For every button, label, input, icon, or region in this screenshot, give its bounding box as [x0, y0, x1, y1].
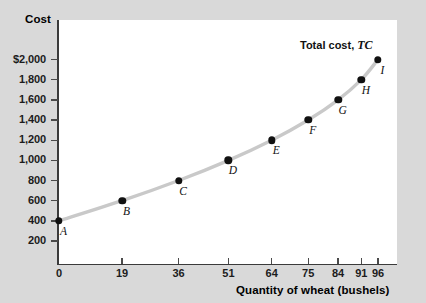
y-tick-mark — [51, 79, 58, 80]
data-point-label: C — [179, 185, 187, 197]
data-point-label: D — [229, 164, 237, 176]
y-tick-mark — [51, 119, 58, 120]
y-tick-label: 800 — [0, 174, 46, 186]
x-tick-mark — [308, 258, 309, 264]
data-point-label: H — [362, 84, 370, 96]
curve-label-symbol: TC — [357, 38, 372, 52]
data-point-label: E — [273, 144, 280, 156]
plot-area — [58, 20, 397, 264]
data-point-label: I — [381, 64, 385, 76]
y-tick-label: 400 — [0, 214, 46, 226]
chart-figure: Cost Quantity of wheat (bushels) 2004006… — [0, 0, 426, 303]
x-tick-mark — [337, 258, 338, 264]
data-point-label: F — [309, 124, 316, 136]
x-tick-label: 51 — [208, 267, 248, 279]
curve-label-text: Total cost, — [300, 39, 354, 51]
y-tick-mark — [51, 200, 58, 201]
x-tick-label: 0 — [39, 267, 79, 279]
y-axis-line — [57, 20, 59, 265]
y-tick-label: 1,400 — [0, 113, 46, 125]
y-tick-mark — [51, 140, 58, 141]
x-tick-mark — [121, 258, 122, 264]
y-tick-label: 200 — [0, 234, 46, 246]
x-tick-label: 96 — [358, 267, 398, 279]
x-tick-mark — [377, 258, 378, 264]
curve-label: Total cost, TC — [300, 38, 373, 53]
y-tick-mark — [51, 160, 58, 161]
y-tick-label: $2,000 — [0, 53, 46, 65]
y-tick-label: 1,000 — [0, 153, 46, 165]
y-tick-label: 600 — [0, 194, 46, 206]
y-tick-label: 1,800 — [0, 73, 46, 85]
x-tick-label: 64 — [252, 267, 292, 279]
data-point-label: A — [60, 225, 67, 237]
data-point-label: G — [338, 104, 346, 116]
x-tick-mark — [228, 258, 229, 264]
y-tick-label: 1,200 — [0, 133, 46, 145]
data-point-label: B — [123, 205, 130, 217]
x-tick-mark — [178, 258, 179, 264]
x-tick-label: 36 — [159, 267, 199, 279]
y-tick-mark — [51, 180, 58, 181]
y-tick-mark — [51, 240, 58, 241]
x-tick-label: 19 — [102, 267, 142, 279]
y-tick-label: 1,600 — [0, 93, 46, 105]
y-axis-title: Cost — [25, 13, 51, 25]
x-axis-title: Quantity of wheat (bushels) — [236, 284, 390, 296]
y-tick-mark — [51, 99, 58, 100]
y-tick-mark — [51, 59, 58, 60]
x-tick-mark — [361, 258, 362, 264]
x-tick-mark — [271, 258, 272, 264]
